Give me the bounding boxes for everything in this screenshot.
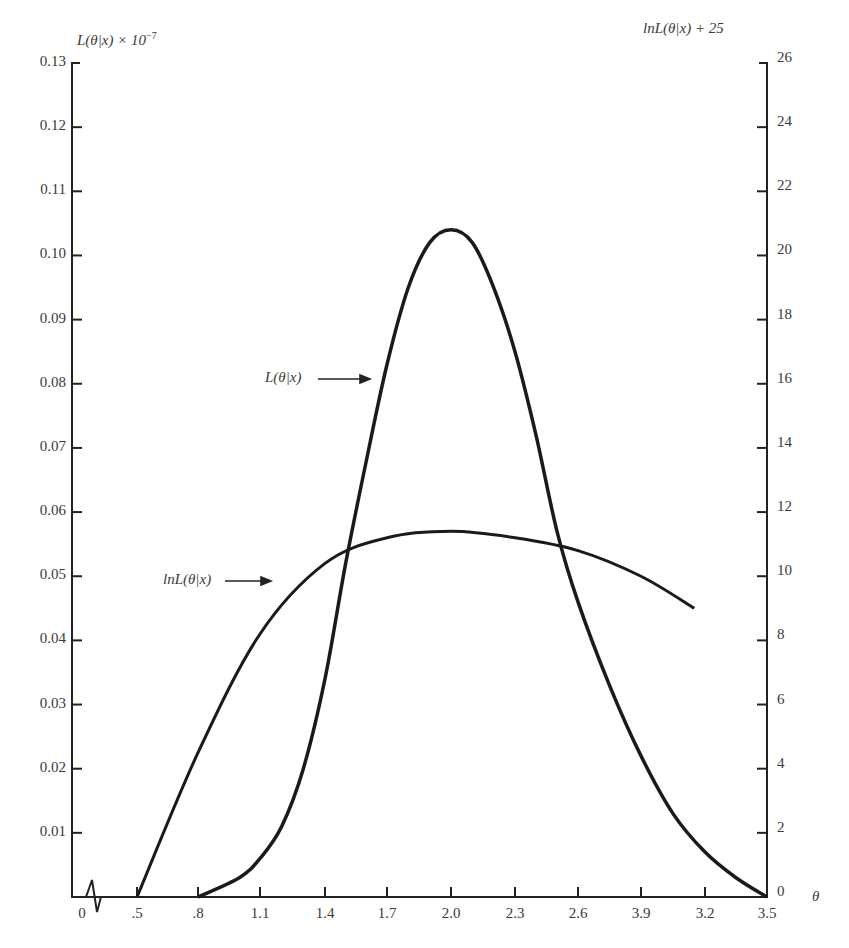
y-left-tick-label: 0.09 (6, 310, 66, 327)
left-axis-title: L(θ|x) × 10−7 (77, 30, 157, 49)
label-lnL-curve: lnL(θ|x) (163, 571, 211, 588)
y-left-tick-label: 0.13 (6, 53, 66, 70)
x-tick-label: 1.4 (305, 905, 345, 922)
y-right-tick-label: 6 (777, 691, 785, 708)
x-axis-title: θ (812, 888, 819, 905)
right-ticks (757, 127, 767, 833)
y-left-tick-label: 0.10 (6, 245, 66, 262)
y-right-tick-label: 16 (777, 370, 792, 387)
right-axis-title: lnL(θ|x) + 25 (643, 20, 724, 37)
y-right-tick-label: 10 (777, 562, 792, 579)
y-right-tick-label: 22 (777, 177, 792, 194)
x-tick-label: 1.7 (367, 905, 407, 922)
y-right-tick-label: 12 (777, 498, 792, 515)
x-tick-label: 1.1 (240, 905, 280, 922)
axis-frame (72, 63, 767, 897)
arrowhead-L-icon (360, 375, 370, 383)
y-left-tick-label: 0.07 (6, 438, 66, 455)
chart-plot (0, 0, 849, 948)
y-left-tick-label: 0.04 (6, 630, 66, 647)
x-tick-label: 3.2 (685, 905, 725, 922)
y-right-tick-label: 8 (777, 626, 785, 643)
y-right-tick-label: 18 (777, 306, 792, 323)
y-left-tick-label: 0.12 (6, 117, 66, 134)
label-L-curve: L(θ|x) (265, 369, 301, 386)
y-left-tick-label: 0.06 (6, 502, 66, 519)
x-tick-label: .8 (178, 905, 218, 922)
y-left-tick-label: 0.03 (6, 695, 66, 712)
x-tick-label: 3.5 (747, 905, 787, 922)
y-right-tick-label: 14 (777, 434, 792, 451)
x-tick-label: 2.6 (558, 905, 598, 922)
y-right-tick-label: 0 (777, 883, 785, 900)
y-right-tick-label: 4 (777, 755, 785, 772)
y-left-tick-label: 0.11 (6, 181, 66, 198)
y-left-tick-label: 0.01 (6, 823, 66, 840)
x-ticks (137, 887, 705, 897)
y-right-tick-label: 20 (777, 241, 792, 258)
x-tick-label: .5 (117, 905, 157, 922)
x-tick-label: 0 (62, 905, 102, 922)
y-right-tick-label: 26 (777, 49, 792, 66)
left-ticks (72, 127, 82, 833)
x-tick-label: 3.9 (621, 905, 661, 922)
y-left-tick-label: 0.08 (6, 374, 66, 391)
likelihood-curve (198, 230, 767, 897)
arrowhead-lnL-icon (261, 577, 271, 585)
y-right-tick-label: 2 (777, 819, 785, 836)
axes (72, 63, 767, 897)
x-tick-label: 2.3 (495, 905, 535, 922)
y-left-tick-label: 0.02 (6, 759, 66, 776)
y-left-tick-label: 0.05 (6, 566, 66, 583)
log-likelihood-curve (137, 531, 694, 897)
y-right-tick-label: 24 (777, 113, 792, 130)
x-tick-label: 2.0 (431, 905, 471, 922)
